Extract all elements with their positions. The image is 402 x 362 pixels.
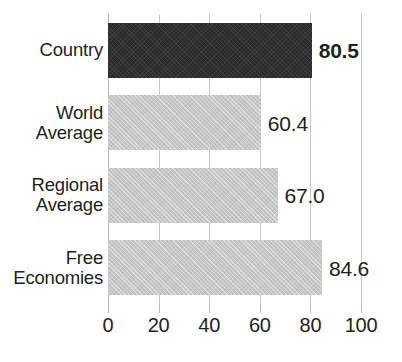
bar-world-average[interactable] xyxy=(108,95,261,150)
x-tick-mark-20 xyxy=(159,304,160,313)
x-tick-label-60: 60 xyxy=(249,314,271,336)
x-tick-label-100: 100 xyxy=(345,314,377,336)
x-tick-label-80: 80 xyxy=(300,314,322,336)
bar-row[interactable]: 67.0 xyxy=(108,168,361,223)
category-label-line: Free xyxy=(3,248,103,268)
category-label-country: Country xyxy=(3,40,103,60)
category-label-world-average: WorldAverage xyxy=(3,103,103,143)
bar-value-label: 67.0 xyxy=(285,185,325,206)
x-tick-mark-40 xyxy=(209,304,210,313)
bar-value-label: 84.6 xyxy=(329,257,369,278)
bar-regional-average[interactable] xyxy=(108,168,278,223)
x-axis: 020406080100 xyxy=(108,304,361,344)
category-label-slot: FreeEconomies xyxy=(0,240,103,295)
category-label-slot: WorldAverage xyxy=(0,95,103,150)
x-tick-mark-60 xyxy=(260,304,261,313)
bar-value-label: 60.4 xyxy=(268,112,308,133)
x-tick-label-0: 0 xyxy=(103,314,114,336)
bar-value-label: 80.5 xyxy=(319,40,359,61)
category-label-slot: Country xyxy=(0,23,103,78)
bar-row[interactable]: 80.5 xyxy=(108,23,361,78)
category-label-line: Economies xyxy=(3,268,103,288)
bar-row[interactable]: 84.6 xyxy=(108,240,361,295)
category-label-line: Country xyxy=(3,40,103,60)
category-label-line: Regional xyxy=(3,175,103,195)
bar-row[interactable]: 60.4 xyxy=(108,95,361,150)
category-label-free-economies: FreeEconomies xyxy=(3,248,103,288)
x-tick-label-20: 20 xyxy=(148,314,170,336)
plot-area: 80.560.467.084.6 xyxy=(108,14,361,304)
category-label-regional-average: RegionalAverage xyxy=(3,175,103,215)
bar-free-economies[interactable] xyxy=(108,240,322,295)
x-tick-mark-0 xyxy=(108,304,109,313)
bar-country[interactable] xyxy=(108,23,312,78)
category-axis: CountryWorldAverageRegionalAverageFreeEc… xyxy=(0,14,103,304)
x-tick-mark-80 xyxy=(310,304,311,313)
category-label-slot: RegionalAverage xyxy=(0,168,103,223)
category-label-line: Average xyxy=(3,123,103,143)
bar-chart: CountryWorldAverageRegionalAverageFreeEc… xyxy=(0,0,402,362)
x-tick-label-40: 40 xyxy=(198,314,220,336)
category-label-line: World xyxy=(3,103,103,123)
x-tick-mark-100 xyxy=(361,304,362,313)
category-label-line: Average xyxy=(3,195,103,215)
